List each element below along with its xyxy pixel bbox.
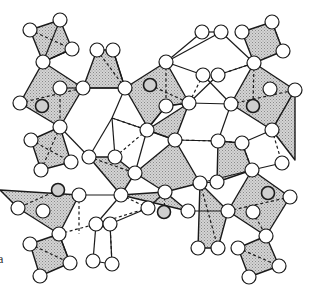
atom	[275, 156, 289, 170]
atom	[211, 134, 225, 148]
atom	[182, 96, 196, 110]
atom	[193, 176, 207, 190]
atom	[36, 55, 50, 69]
inner-atom	[247, 100, 260, 113]
atom	[23, 237, 37, 251]
atom	[245, 163, 259, 177]
atom	[33, 269, 47, 283]
atom	[211, 68, 225, 82]
atom	[106, 43, 120, 57]
atom	[272, 259, 286, 273]
inner-atom	[144, 79, 157, 92]
atom	[103, 217, 117, 231]
atom	[191, 241, 205, 255]
atom	[34, 163, 48, 177]
atom	[64, 155, 78, 169]
atom	[65, 42, 79, 56]
atom	[246, 205, 260, 219]
atom	[63, 256, 77, 270]
polyhedron	[135, 140, 200, 192]
atom	[242, 270, 256, 284]
atom	[76, 81, 90, 95]
atom	[140, 123, 154, 137]
atom	[114, 188, 128, 202]
atom	[141, 201, 155, 215]
atom	[11, 201, 25, 215]
axis-label: a	[0, 252, 3, 267]
atom	[82, 150, 96, 164]
atom	[23, 23, 37, 37]
atom	[72, 188, 86, 202]
inner-atom	[36, 100, 49, 113]
atom	[53, 120, 67, 134]
polyhedron	[20, 62, 83, 127]
atom	[235, 136, 249, 150]
crystal-structure-diagram	[0, 0, 311, 290]
inner-atom	[262, 187, 275, 200]
atom	[288, 83, 302, 97]
atom	[108, 150, 122, 164]
atom	[159, 99, 173, 113]
atom	[181, 204, 195, 218]
atom	[210, 175, 224, 189]
atom	[224, 97, 238, 111]
atom	[263, 82, 277, 96]
atom	[168, 133, 182, 147]
atom	[13, 96, 27, 110]
atom	[105, 257, 119, 271]
atom	[53, 81, 67, 95]
atom	[53, 13, 67, 27]
atom	[211, 241, 225, 255]
atom	[118, 81, 132, 95]
atom	[283, 190, 297, 204]
atom	[265, 123, 279, 137]
atom	[235, 25, 249, 39]
atom	[36, 204, 50, 218]
atom	[247, 56, 261, 70]
atom	[86, 254, 100, 268]
atom	[128, 166, 142, 180]
atom	[159, 55, 173, 69]
atom	[214, 25, 228, 39]
inner-atom	[52, 184, 65, 197]
atom	[231, 241, 245, 255]
atom	[259, 229, 273, 243]
atom	[221, 204, 235, 218]
atom	[24, 133, 38, 147]
atom	[276, 44, 290, 58]
solid-bond	[166, 32, 221, 62]
inner-atom	[158, 206, 171, 219]
atom	[158, 185, 172, 199]
atom	[90, 43, 104, 57]
atom	[89, 217, 103, 231]
atom	[195, 25, 209, 39]
polyhedron	[228, 170, 290, 236]
atom	[52, 227, 66, 241]
atom	[265, 15, 279, 29]
atom	[196, 68, 210, 82]
